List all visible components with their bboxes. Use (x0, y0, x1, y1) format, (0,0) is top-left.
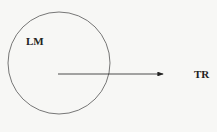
diagram-canvas: LM TR (0, 0, 217, 132)
lm-label: LM (26, 35, 44, 47)
lm-circle (8, 12, 110, 114)
tr-label: TR (194, 68, 210, 80)
